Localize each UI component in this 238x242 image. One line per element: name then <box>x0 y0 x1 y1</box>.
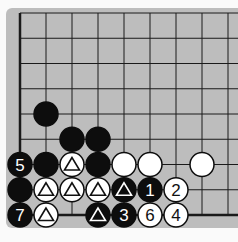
black-stone: 1 <box>138 178 162 202</box>
black-stone <box>86 127 110 151</box>
white-stone <box>60 178 84 202</box>
black-stone <box>34 153 58 177</box>
white-stone <box>86 178 110 202</box>
move-number: 4 <box>171 206 180 225</box>
black-stone: 5 <box>8 153 32 177</box>
white-stone <box>190 153 214 177</box>
white-stone <box>138 153 162 177</box>
white-stone: 6 <box>138 203 162 227</box>
black-stone <box>60 127 84 151</box>
white-stone <box>112 153 136 177</box>
white-stone <box>60 153 84 177</box>
black-stone: 7 <box>8 203 32 227</box>
white-stone <box>34 203 58 227</box>
move-number: 1 <box>145 181 154 200</box>
white-stone: 2 <box>164 178 188 202</box>
move-number: 2 <box>171 181 180 200</box>
black-stone <box>8 178 32 202</box>
black-stone <box>34 102 58 126</box>
move-number: 3 <box>119 206 128 225</box>
move-number: 6 <box>145 206 154 225</box>
black-stone: 3 <box>112 203 136 227</box>
move-number: 7 <box>15 206 24 225</box>
move-number: 5 <box>15 156 24 175</box>
black-stone <box>86 203 110 227</box>
white-stone <box>34 178 58 202</box>
go-board-grid: 5127364 <box>0 0 238 242</box>
black-stone <box>86 153 110 177</box>
white-stone: 4 <box>164 203 188 227</box>
black-stone <box>112 178 136 202</box>
